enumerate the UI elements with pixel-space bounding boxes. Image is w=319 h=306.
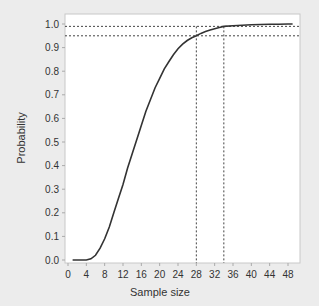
- chart-svg: 0.00.10.20.30.40.50.60.70.80.91.0 048121…: [0, 0, 319, 306]
- plot-area: [65, 14, 300, 263]
- x-tick-label: 24: [172, 269, 184, 280]
- chart-figure: 0.00.10.20.30.40.50.60.70.80.91.0 048121…: [0, 0, 319, 306]
- y-tick-label: 1.0: [45, 19, 59, 30]
- y-tick-label: 0.3: [45, 184, 59, 195]
- y-tick-label: 0.7: [45, 89, 59, 100]
- x-tick-label: 48: [282, 269, 294, 280]
- x-tick-label: 32: [209, 269, 221, 280]
- y-tick-label: 0.0: [45, 255, 59, 266]
- x-axis: 04812162024283236404448: [65, 263, 294, 280]
- x-tick-label: 4: [84, 269, 90, 280]
- y-tick-label: 0.4: [45, 160, 59, 171]
- y-tick-label: 0.9: [45, 42, 59, 53]
- y-tick-label: 0.2: [45, 207, 59, 218]
- x-tick-label: 8: [102, 269, 108, 280]
- x-tick-label: 44: [264, 269, 276, 280]
- y-axis: 0.00.10.20.30.40.50.60.70.80.91.0: [45, 19, 65, 266]
- y-tick-label: 0.5: [45, 137, 59, 148]
- x-tick-label: 16: [136, 269, 148, 280]
- y-tick-label: 0.8: [45, 66, 59, 77]
- x-tick-label: 0: [65, 269, 71, 280]
- x-tick-label: 40: [246, 269, 258, 280]
- x-tick-label: 28: [191, 269, 203, 280]
- x-axis-title: Sample size: [130, 286, 190, 298]
- y-tick-label: 0.1: [45, 231, 59, 242]
- y-axis-title: Probability: [15, 112, 27, 164]
- x-tick-label: 36: [227, 269, 239, 280]
- y-tick-label: 0.6: [45, 113, 59, 124]
- x-tick-label: 20: [154, 269, 166, 280]
- x-tick-label: 12: [117, 269, 129, 280]
